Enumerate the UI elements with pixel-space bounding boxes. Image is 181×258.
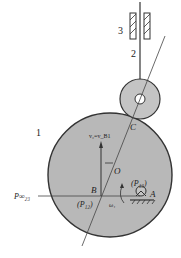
label-point-C: C: [130, 122, 137, 132]
label-P23-infinity: P∞₂₃: [13, 192, 30, 201]
mechanism-diagram: 3 2 1 C O B A v₂=v_B1 (P₁₃) (P₁₂) P∞₂₃ ω…: [0, 0, 181, 258]
label-P12: (P₁₂): [77, 200, 93, 209]
label-point-A: A: [149, 189, 156, 199]
label-link-2: 2: [131, 48, 136, 59]
label-link-1: 1: [36, 127, 41, 138]
label-point-B: B: [91, 185, 97, 195]
label-point-O: O: [114, 166, 121, 176]
label-link-3: 3: [118, 25, 123, 36]
label-omega: ω₁: [109, 202, 115, 208]
label-P13: (P₁₃): [131, 179, 147, 188]
label-velocity: v₂=v_B1: [89, 133, 110, 139]
